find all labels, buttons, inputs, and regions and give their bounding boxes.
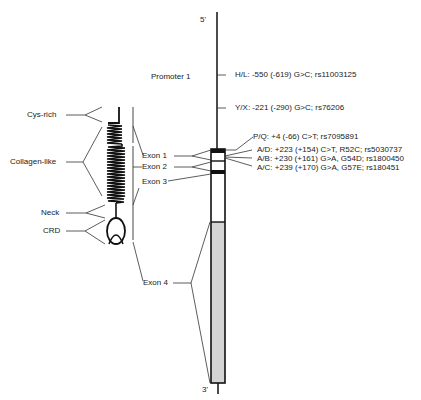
leader-ad [225,150,252,156]
leader-exon1b [192,156,211,160]
leader-collagen-b [83,162,102,196]
leader-exon2 [174,162,211,167]
variant-hl: H/L: -550 (-619) G>C; rs11003125 [235,71,356,79]
exon1-label: Exon 1 [142,152,167,160]
leader-exon3 [168,174,211,181]
three-prime-label: 3' [202,386,208,394]
leader-ab [225,157,252,158]
leader-pq [225,137,253,150]
variant-ad: A/D: +223 (+154) C>T, R52C; rs5030737 [257,146,402,154]
leader-neck [66,205,105,213]
gene-diagram [0,0,421,400]
domain-crd: CRD [43,227,60,235]
variant-ac: A/C: +239 (+170) G>A, G57E; rs180451 [257,164,400,172]
exon1-band [211,149,225,153]
leader-exon4 [191,222,210,383]
five-prime-label: 5' [200,16,206,24]
protein-exon3-diag [133,188,139,205]
exon2-exon3-band [211,170,225,174]
domain-neck: Neck [41,209,59,217]
exon2-label: Exon 2 [142,163,167,171]
exon4-shaded [211,222,225,383]
leader-collagen [66,127,102,162]
leader-cys-rich [66,107,102,115]
exon3-label: Exon 3 [142,178,167,186]
variant-yx: Y/X: -221 (-290) G>C; rs76206 [235,104,344,112]
domain-collagen-like: Collagen-like [10,158,56,166]
crd-oval [107,218,125,244]
variant-ab: A/B: +230 (+161) G>A, G54D; rs1800450 [257,155,404,163]
exon4-label: Exon 4 [143,279,168,287]
leader-crd [66,220,105,231]
domain-cys-rich: Cys-rich [27,111,56,119]
leader-neck-b [86,213,105,218]
cys-rich-stem [108,107,119,123]
protein-exon4-diag [133,242,143,281]
leader-cys-rich-b [85,115,102,122]
collagen-helix [107,125,125,203]
promoter-label: Promoter 1 [151,73,191,81]
leader-ac [225,158,252,166]
leader-exon2b [192,167,211,171]
variant-pq: P/Q: +4 (-66) C>T; rs7095891 [253,133,358,141]
leader-crd-b [85,231,105,244]
leader-exon1 [174,150,211,156]
